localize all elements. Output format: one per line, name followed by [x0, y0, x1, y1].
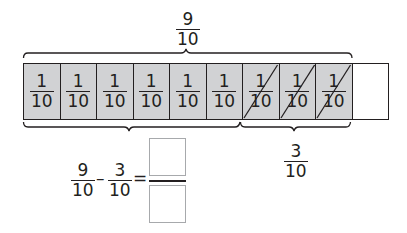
- bottom-left-brace: [23, 121, 243, 133]
- tape-cell-8-crossed: 1 10: [280, 64, 317, 119]
- cell-numerator: 1: [181, 73, 194, 90]
- answer-numerator-box[interactable]: [149, 138, 186, 176]
- tape-cell-5: 1 10: [170, 64, 207, 119]
- cell-fraction: 1 10: [212, 73, 236, 110]
- label-denominator: 10: [284, 163, 308, 180]
- minus-operator: –: [96, 170, 105, 187]
- cell-denominator: 10: [66, 93, 90, 110]
- term1-numerator: 9: [76, 162, 89, 179]
- cross-out-slash-icon: [243, 64, 279, 119]
- cell-denominator: 10: [176, 93, 200, 110]
- answer-denominator-box[interactable]: [149, 185, 186, 223]
- crossed-out-fraction-label: 3 10: [284, 143, 308, 180]
- tape-cell-3: 1 10: [97, 64, 134, 119]
- cell-fraction: 1 10: [139, 73, 163, 110]
- tape-cell-6: 1 10: [207, 64, 244, 119]
- term2-denominator: 10: [108, 182, 132, 199]
- term1-denominator: 10: [71, 182, 95, 199]
- cell-numerator: 1: [72, 73, 85, 90]
- cross-out-slash-icon: [280, 64, 316, 119]
- equals-sign: =: [133, 170, 147, 187]
- tape-cell-10-empty: [353, 64, 389, 119]
- cell-numerator: 1: [108, 73, 121, 90]
- cell-fraction: 1 10: [30, 73, 54, 110]
- cell-denominator: 10: [30, 93, 54, 110]
- cross-out-slash-icon: [316, 64, 352, 119]
- cell-numerator: 1: [218, 73, 231, 90]
- tape-cell-1: 1 10: [24, 64, 61, 119]
- equation-term1: 9 10: [71, 162, 95, 199]
- equation-term2: 3 10: [108, 162, 132, 199]
- cell-fraction: 1 10: [103, 73, 127, 110]
- cell-denominator: 10: [139, 93, 163, 110]
- top-fraction-numerator: 9: [181, 11, 194, 28]
- cell-denominator: 10: [103, 93, 127, 110]
- answer-fraction-bar: [149, 180, 186, 182]
- cell-fraction: 1 10: [176, 73, 200, 110]
- term2-numerator: 3: [113, 162, 126, 179]
- cell-numerator: 1: [35, 73, 48, 90]
- top-brace: [23, 48, 353, 60]
- cell-fraction: 1 10: [66, 73, 90, 110]
- label-numerator: 3: [289, 143, 302, 160]
- tape-cell-2: 1 10: [61, 64, 98, 119]
- tape-cell-9-crossed: 1 10: [316, 64, 353, 119]
- tape-cell-7-crossed: 1 10: [243, 64, 280, 119]
- cell-denominator: 10: [212, 93, 236, 110]
- bottom-right-brace: [240, 121, 355, 133]
- top-fraction-denominator: 10: [176, 31, 200, 48]
- top-fraction-label: 9 10: [176, 11, 200, 48]
- tape-cell-4: 1 10: [134, 64, 171, 119]
- cell-numerator: 1: [145, 73, 158, 90]
- tape-diagram: 1 10 1 10 1 10 1 10 1 10: [23, 63, 389, 120]
